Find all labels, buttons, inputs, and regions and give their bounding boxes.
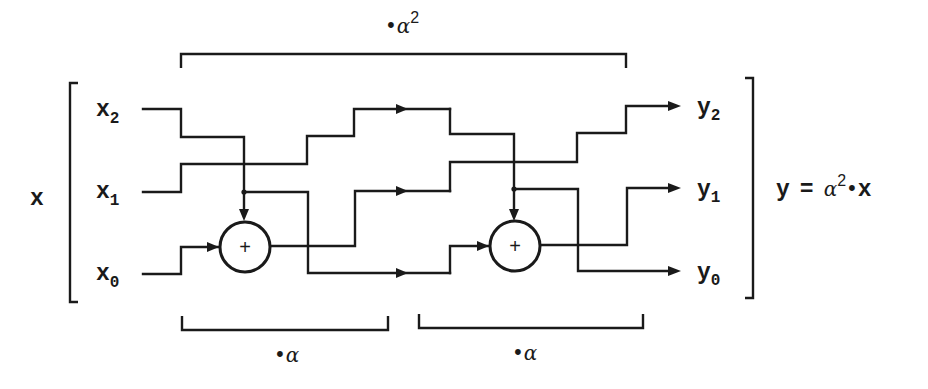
svg-text:•α2: •α2 xyxy=(385,9,419,38)
arrow-right-icon xyxy=(668,183,681,193)
input-x1-label: x1 xyxy=(96,179,119,210)
arrow-right-icon xyxy=(477,241,489,251)
svg-text:•α: •α xyxy=(512,341,538,365)
input-vector-label: x xyxy=(30,186,44,212)
stage-1-dot: • xyxy=(274,343,286,367)
stage-1-alpha: α xyxy=(286,343,300,367)
top-bracket-alpha: α xyxy=(397,14,411,38)
output-y0-label: y0 xyxy=(697,260,720,290)
top-bracket-exponent: 2 xyxy=(410,9,419,26)
junction-dot xyxy=(511,186,516,191)
alpha-squared-bracket: •α2 xyxy=(181,9,626,68)
output-vector: y2 y1 y0 xyxy=(697,78,753,298)
arrow-down-icon xyxy=(239,209,249,221)
equation: y=α2•x xyxy=(776,172,872,203)
arrow-down-icon xyxy=(509,209,519,221)
arrow-right-icon xyxy=(396,104,408,114)
arrow-right-icon xyxy=(668,266,681,276)
output-y2-label: y2 xyxy=(697,95,720,125)
output-y1-label: y1 xyxy=(697,177,720,207)
top-bracket-dot: • xyxy=(385,14,397,38)
multiplication-by-alpha-squared-diagram: •α2 x x2 x1 x0 + xyxy=(0,0,928,389)
stage-2-bracket: •α xyxy=(419,314,643,365)
arrow-right-icon xyxy=(396,268,408,278)
input-x0-label: x0 xyxy=(96,261,119,292)
stage-2-dot: • xyxy=(512,341,524,365)
arrow-right-icon xyxy=(207,242,219,252)
adder-2: + xyxy=(490,221,540,271)
junction-dot xyxy=(241,189,246,194)
equation-text: y=α2•x xyxy=(776,172,872,203)
input-x2-label: x2 xyxy=(96,97,119,128)
arrow-right-icon xyxy=(668,101,681,111)
stage-2-alpha: α xyxy=(524,341,538,365)
plus-icon: + xyxy=(509,235,521,257)
plus-icon: + xyxy=(239,236,251,258)
input-vector: x x2 x1 x0 xyxy=(30,83,119,302)
adder-1: + xyxy=(220,222,270,272)
stage-1-bracket: •α xyxy=(182,316,388,367)
arrow-right-icon xyxy=(396,186,408,196)
svg-text:•α: •α xyxy=(274,343,300,367)
